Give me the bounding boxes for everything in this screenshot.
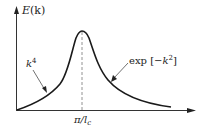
x-tick-label-main: π/l [74,114,87,125]
exp-pointer-line [114,63,128,78]
k4-pointer-line [33,70,45,90]
right-curve-label-suffix: ] [173,55,177,66]
x-tick-label: π/lc [74,115,91,125]
y-axis-label: E(k) [22,5,45,16]
y-axis-label-arg: (k) [30,4,45,17]
left-curve-label-exp: 4 [32,57,36,65]
x-tick-label-sub: c [87,119,91,127]
k4-pointer-arrow-icon [42,86,47,93]
left-curve-label: k4 [26,59,37,69]
right-curve-label: exp [−k2] [129,56,177,66]
x-axis-arrow-icon [187,108,196,113]
y-axis-label-main: E [22,4,30,17]
spectrum-curve [17,31,171,110]
y-axis-arrow-icon [14,6,19,14]
right-curve-label-prefix: exp [− [129,55,162,66]
